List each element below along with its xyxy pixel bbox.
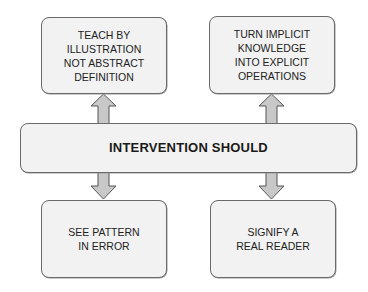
- center-box: INTERVENTION SHOULD: [20, 123, 357, 173]
- center-box-label: INTERVENTION SHOULD: [109, 141, 268, 155]
- bottom-left-box: SEE PATTERN IN ERROR: [41, 200, 167, 278]
- arrow-up-right-icon: [259, 94, 284, 124]
- box-text-line: NOT ABSTRACT: [64, 56, 144, 70]
- arrow-down-right-icon: [259, 171, 284, 199]
- box-text-line: ILLUSTRATION: [67, 42, 141, 56]
- bottom-right-box: SIGNIFY A REAL READER: [210, 200, 336, 278]
- box-text-line: SEE PATTERN: [68, 225, 139, 239]
- arrow-down-left-icon: [91, 171, 116, 199]
- top-right-box: TURN IMPLICIT KNOWLEDGE INTO EXPLICIT OP…: [209, 16, 335, 94]
- box-text-line: REAL READER: [236, 239, 310, 253]
- box-text-line: IN ERROR: [78, 239, 129, 253]
- box-text-line: OPERATIONS: [238, 69, 306, 83]
- box-text-line: SIGNIFY A: [247, 225, 298, 239]
- box-text-line: TURN IMPLICIT: [234, 27, 310, 41]
- box-text-line: INTO EXPLICIT: [235, 55, 310, 69]
- arrow-up-left-icon: [91, 94, 116, 124]
- box-text-line: TEACH BY: [78, 28, 131, 42]
- top-left-box: TEACH BY ILLUSTRATION NOT ABSTRACT DEFIN…: [41, 17, 167, 94]
- box-text-line: DEFINITION: [74, 70, 134, 84]
- box-text-line: KNOWLEDGE: [238, 41, 306, 55]
